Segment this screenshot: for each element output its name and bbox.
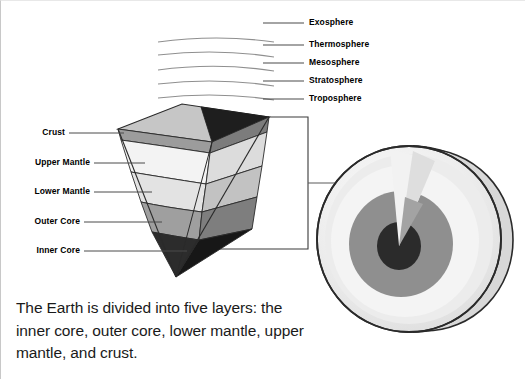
wedge-label-lower-mantle: Lower Mantle xyxy=(1,186,90,196)
atmosphere-arc-thermosphere xyxy=(158,38,274,42)
figure-root: Exosphere Thermosphere Mesosphere Strato… xyxy=(0,0,525,379)
atmosphere-arc-lower xyxy=(158,95,274,100)
atmosphere-label-thermosphere: Thermosphere xyxy=(309,39,369,49)
atmosphere-arc-mesosphere xyxy=(158,52,274,57)
earth-sphere xyxy=(317,146,513,332)
atmosphere-label-exosphere: Exosphere xyxy=(309,17,353,27)
figure-caption: The Earth is divided into five layers: t… xyxy=(16,297,316,365)
wedge-label-upper-mantle: Upper Mantle xyxy=(1,157,90,167)
wedge-label-crust: Crust xyxy=(1,127,65,137)
atmosphere-label-mesosphere: Mesosphere xyxy=(309,57,360,67)
atmosphere-label-troposphere: Troposphere xyxy=(309,93,362,103)
atmosphere-leader-lines xyxy=(263,23,304,99)
atmosphere-arc-troposphere xyxy=(158,81,274,86)
wedge-label-outer-core: Outer Core xyxy=(1,216,80,226)
atmosphere-label-stratosphere: Stratosphere xyxy=(309,75,363,85)
atmosphere-arc-stratosphere xyxy=(158,66,274,71)
atmosphere-arcs xyxy=(158,38,274,100)
wedge-label-inner-core: Inner Core xyxy=(1,245,80,255)
